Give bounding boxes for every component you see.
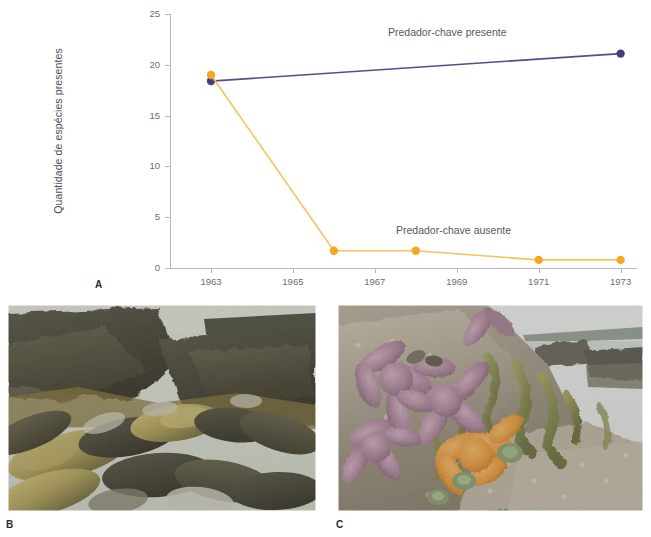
series-label-present: Predador-chave presente bbox=[388, 26, 507, 38]
panel-letter-c: C bbox=[336, 519, 343, 530]
sea-star-illustration bbox=[338, 305, 643, 511]
mussel-bed-illustration bbox=[8, 305, 316, 511]
panel-letter-b: B bbox=[6, 519, 13, 530]
series-line bbox=[211, 54, 621, 82]
data-point bbox=[616, 49, 624, 57]
plot-area bbox=[0, 0, 651, 300]
data-point bbox=[412, 247, 420, 255]
series-present bbox=[207, 49, 625, 85]
panel-letter-a: A bbox=[95, 279, 102, 290]
series-label-absent: Predador-chave ausente bbox=[396, 224, 511, 236]
data-point bbox=[535, 256, 543, 264]
data-point bbox=[207, 71, 215, 79]
mussel-bed-photo bbox=[8, 305, 316, 511]
chart-panel-a: Quantidade de espécies presentes 0510152… bbox=[0, 0, 651, 300]
data-point bbox=[616, 256, 624, 264]
sea-star-intertidal-photo bbox=[338, 305, 643, 511]
data-point bbox=[330, 247, 338, 255]
